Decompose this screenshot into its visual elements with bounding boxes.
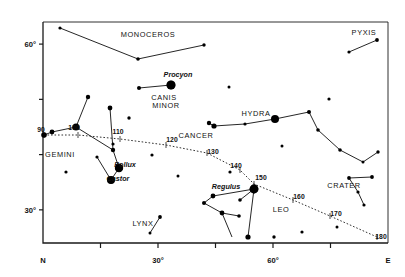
star-point [338,148,342,152]
star-point [300,230,303,233]
star-name-label: Castor [107,174,131,183]
star-name-label: Regulus [212,182,240,191]
star-point [362,203,365,206]
constellation-label: PYXIS [352,28,377,37]
ecliptic-degree-label: 180 [375,233,387,240]
star-point [136,57,140,61]
star-point [272,235,275,238]
ecliptic-degree-label: 120 [166,136,178,143]
star-point [316,128,320,132]
y-tick-label: 60° [25,40,36,49]
star-point [327,97,330,100]
ecliptic-degree-label: 90 [37,126,45,133]
star-point [149,232,152,235]
star-point [243,122,246,125]
star-point [202,43,205,46]
star-point [336,226,339,229]
star-point [211,123,216,128]
named-star-point [166,80,175,89]
star-point [137,86,141,90]
ecliptic-degree-label: 160 [293,193,305,200]
constellation-label: LEO [273,205,290,214]
star-point [158,215,162,219]
star-point [245,234,250,239]
star-point [150,153,153,156]
star-point [356,190,359,193]
star-point [228,170,231,173]
constellation-label: GEMINI [45,150,75,159]
star-point [207,121,211,125]
star-point [64,170,67,173]
constellation-label: HYDRA [242,109,271,118]
ecliptic-degree-label: 100 [68,124,80,131]
star-point [95,155,98,158]
star-chart-canvas: 90100110120130140150160170180 MONOCEROSP… [0,0,405,277]
star-point [228,86,231,89]
star-point [111,142,114,145]
named-star-point [250,185,259,194]
x-tick-label: 30° [152,256,163,265]
star-point [307,110,311,114]
x-tick-label: E [385,256,390,265]
x-tick-label: N [40,256,45,265]
star-point [271,115,279,123]
constellation-label: CANCER [179,131,214,140]
star-point [237,214,241,218]
star-point [177,175,180,178]
constellation-label: CRATER [327,181,360,190]
star-name-label: Pollux [114,160,137,169]
star-point [347,50,350,53]
ecliptic-degree-label: 130 [207,148,219,155]
ecliptic-degree-label: 140 [230,162,242,169]
star-point [108,106,113,111]
star-point [220,211,225,216]
constellation-label: LYNX [132,219,153,228]
star-point [370,175,374,179]
x-tick-label: 60° [267,256,278,265]
star-point [281,145,284,148]
star-name-label: Procyon [164,70,193,79]
star-point [238,198,242,202]
constellation-label: MINOR [152,101,180,110]
star-point [86,95,90,99]
ecliptic-degree-label: 110 [113,128,124,135]
star-point [127,116,130,119]
star-point [211,194,216,199]
star-point [202,201,206,205]
star-point [41,132,47,138]
ecliptic-degree-label: 150 [255,174,267,181]
star-point [111,148,115,152]
star-point [347,176,351,180]
star-chart: 90100110120130140150160170180 MONOCEROSP… [0,0,405,277]
constellation-label: MONOCEROS [121,30,176,39]
star-point [50,130,55,135]
star-point [375,38,379,42]
y-tick-label: 30° [25,206,36,215]
star-point [58,26,61,29]
star-point [376,150,379,153]
ecliptic-degree-label: 170 [330,210,342,217]
star-point [362,161,365,164]
